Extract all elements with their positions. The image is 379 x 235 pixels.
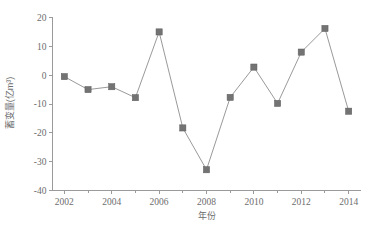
y-tick-label: -40 — [34, 186, 47, 196]
chart-figure: 20100-10-20-30-40 2002200420062008201020… — [0, 0, 379, 235]
data-point-marker — [274, 100, 280, 106]
x-axis-title: 年份 — [198, 210, 216, 221]
x-tick-label: 2010 — [244, 197, 263, 207]
data-point-marker — [132, 95, 138, 101]
x-tick-label: 2006 — [150, 197, 169, 207]
figure-caption-strip — [0, 228, 379, 235]
y-tick-label: -10 — [34, 99, 47, 109]
x-tick-label: 2008 — [197, 197, 216, 207]
data-point-marker — [109, 84, 115, 90]
data-point-marker — [85, 86, 91, 92]
y-tick-label: 20 — [37, 13, 47, 23]
data-point-marker — [61, 74, 67, 80]
data-point-marker — [227, 94, 233, 100]
data-point-marker — [298, 49, 304, 55]
data-point-marker — [180, 125, 186, 131]
data-point-marker — [322, 25, 328, 31]
x-tick-label: 2012 — [292, 197, 311, 207]
data-point-marker — [156, 29, 162, 35]
data-point-marker — [203, 167, 209, 173]
x-tick-label: 2004 — [102, 197, 121, 207]
y-tick-label: -30 — [34, 157, 47, 167]
x-tick-label: 2002 — [55, 197, 74, 207]
line-chart-canvas: 20100-10-20-30-40 2002200420062008201020… — [0, 0, 379, 235]
y-tick-label: -20 — [34, 128, 47, 138]
data-point-marker — [346, 108, 352, 114]
y-tick-label: 0 — [42, 71, 47, 81]
y-axis-title: 蓄变量(亿m³) — [4, 77, 15, 130]
data-point-marker — [251, 64, 257, 70]
y-tick-label: 10 — [37, 42, 47, 52]
x-tick-label: 2014 — [339, 197, 358, 207]
